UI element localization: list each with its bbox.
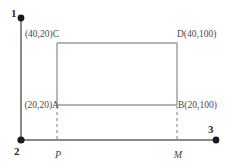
axis-3-label: 3 [208,124,214,135]
point-d-label: D(40,100) [177,30,216,40]
foot-point-p-label: P [55,150,61,160]
horizontal-axis-endpoint-dot [213,137,220,144]
point-a-label: (20,20)A [24,101,59,111]
geometry-figure: 1 2 3 (40,20)C D(40,100) (20,20)A B(20,1… [0,0,233,168]
vertical-axis-endpoint-dot [18,15,25,22]
axis-2-label: 2 [14,146,20,157]
point-c-label: (40,20)C [25,30,59,40]
point-b-label: B(20,100) [178,101,217,111]
foot-point-m-label: M [174,150,182,160]
axis-1-label: 1 [11,8,17,19]
origin-dot [17,136,24,143]
diagram-canvas [0,0,233,168]
